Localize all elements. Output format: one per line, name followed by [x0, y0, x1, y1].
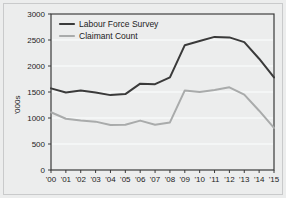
y-tick-label: 1000: [27, 114, 45, 123]
y-axis-tick-labels: 300025002000150010005000: [27, 10, 51, 175]
x-tick-label: '03: [90, 175, 101, 184]
x-tick-label: '10: [194, 175, 205, 184]
y-tick-label: 500: [32, 140, 46, 149]
y-tick-label: 3000: [27, 10, 45, 19]
y-tick-label: 0: [41, 166, 46, 175]
x-tick-label: '05: [120, 175, 131, 184]
x-tick-label: '14: [254, 175, 265, 184]
legend-label: Labour Force Survey: [79, 19, 159, 29]
x-tick-label: '01: [61, 175, 72, 184]
legend-label: Claimant Count: [79, 31, 138, 41]
x-tick-label: '12: [224, 175, 235, 184]
x-tick-label: '02: [76, 175, 87, 184]
y-tick-label: 2000: [27, 62, 45, 71]
x-axis-tick-labels: '00'01'02'03'04'05'06'07'08'09'10'11'12'…: [46, 175, 280, 184]
x-tick-label: '11: [210, 175, 220, 184]
chart-figure: 300025002000150010005000 '000s '00'01'02…: [0, 0, 286, 198]
x-tick-label: '08: [165, 175, 176, 184]
x-tick-label: '04: [105, 175, 116, 184]
x-tick-label: '00: [46, 175, 57, 184]
y-axis-title: '000s: [13, 96, 22, 115]
line-chart: 300025002000150010005000 '000s '00'01'02…: [0, 0, 286, 198]
y-tick-label: 2500: [27, 36, 45, 45]
x-tick-label: '06: [135, 175, 146, 184]
x-tick-label: '13: [239, 175, 250, 184]
x-tick-label: '15: [269, 175, 280, 184]
y-tick-label: 1500: [27, 88, 45, 97]
x-tick-label: '07: [150, 175, 161, 184]
x-tick-label: '09: [180, 175, 191, 184]
